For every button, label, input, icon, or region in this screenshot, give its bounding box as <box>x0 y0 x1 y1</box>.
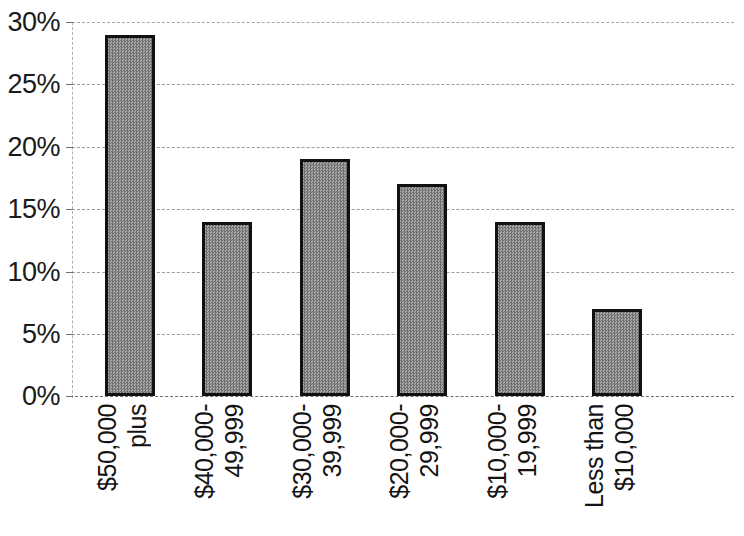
x-axis-label-20000-29999: $20,000- 29,999 <box>385 404 447 536</box>
x-axis-label-10000-19999: $10,000- 19,999 <box>483 404 545 536</box>
y-tick-0 <box>66 396 73 397</box>
x-axis-label-line-1: Less than <box>580 404 609 508</box>
x-axis-label-line-2: 19,999 <box>513 404 542 477</box>
y-axis-label-25: 25% <box>0 71 60 98</box>
x-axis-label-line-1: $30,000- <box>288 404 317 499</box>
bar-30000-39999 <box>300 159 350 396</box>
bar-40000-49999 <box>202 222 252 397</box>
bar-less-than-10000 <box>592 309 642 396</box>
x-axis-label-30000-39999: $30,000- 39,999 <box>288 404 350 536</box>
y-axis-label-0: 0% <box>0 383 60 410</box>
x-axis-label-line-2: $10,000 <box>610 404 639 491</box>
x-axis-label-line-2: 39,999 <box>318 404 347 477</box>
bar-20000-29999 <box>397 184 447 396</box>
x-axis-label-less-than-10000: Less than $10,000 <box>580 404 642 536</box>
y-axis-label-15: 15% <box>0 196 60 223</box>
gridline-0-baseline <box>70 396 734 397</box>
bar-50000-plus <box>105 35 155 397</box>
x-axis-label-50000-plus: $50,000 plus <box>93 404 155 536</box>
x-axis-label-40000-49999: $40,000- 49,999 <box>190 404 252 536</box>
x-axis-label-line-1: $50,000 <box>93 404 122 491</box>
bar-chart: 30% 25% 20% 15% 10% 5% 0% $50,000 plus $… <box>0 0 744 536</box>
bar-10000-19999 <box>495 222 545 397</box>
x-axis-label-line-1: $40,000- <box>190 404 219 499</box>
y-axis-label-30: 30% <box>0 9 60 36</box>
plot-area <box>72 22 732 396</box>
x-axis-label-line-2: 49,999 <box>220 404 249 477</box>
y-axis-label-20: 20% <box>0 134 60 161</box>
y-axis-label-10: 10% <box>0 259 60 286</box>
x-axis-label-line-1: $20,000- <box>385 404 414 499</box>
y-axis-label-5: 5% <box>0 321 60 348</box>
x-axis-label-line-2: 29,999 <box>415 404 444 477</box>
x-axis-label-line-1: $10,000- <box>483 404 512 499</box>
x-axis-label-line-2: plus <box>123 404 152 448</box>
